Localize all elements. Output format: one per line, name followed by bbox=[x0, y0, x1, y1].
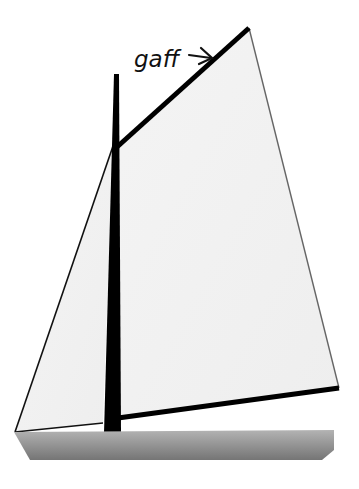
mainsail bbox=[118, 28, 339, 418]
hull bbox=[14, 430, 334, 460]
sailboat-diagram: gaff bbox=[0, 0, 359, 489]
gaff-label: gaff bbox=[134, 46, 182, 72]
